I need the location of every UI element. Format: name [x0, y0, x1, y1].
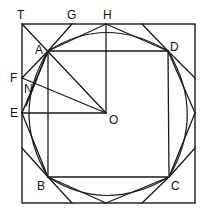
line-a-n	[26, 51, 48, 106]
line-c-bottom-mid	[106, 177, 169, 203]
octagon-edge-a-g	[48, 24, 72, 51]
line-d-right-mid	[168, 51, 195, 113]
line-b-e	[22, 113, 48, 177]
label-e: E	[10, 106, 18, 120]
label-c: C	[171, 179, 180, 193]
label-f: F	[10, 71, 17, 85]
circle-arc-top	[48, 33, 168, 52]
label-t: T	[17, 8, 25, 22]
octagon-edge-b-bottom	[48, 177, 72, 203]
label-n: N	[24, 82, 33, 96]
geometry-diagram: T G H A D F N E O B C	[0, 0, 210, 218]
line-a-h	[48, 24, 106, 51]
circle-arc-bottom	[48, 177, 169, 196]
label-o: O	[109, 113, 118, 127]
line-d-h	[106, 24, 168, 51]
octagon-edge-d-right	[168, 51, 195, 78]
label-d: D	[170, 40, 179, 54]
octagon-edge-c-right	[169, 148, 195, 177]
label-a: A	[35, 43, 43, 57]
octagon-edge-c-bottom	[142, 177, 169, 203]
octagon-edge-d-top	[142, 24, 168, 51]
label-h: H	[103, 8, 112, 22]
circle-arc-right	[168, 51, 187, 177]
line-c-right-mid	[169, 113, 195, 177]
line-t-o	[22, 24, 106, 113]
octagon-edge-b-left	[22, 148, 48, 177]
label-g: G	[67, 8, 76, 22]
line-b-bottom-mid	[48, 177, 106, 203]
label-b: B	[37, 179, 45, 193]
